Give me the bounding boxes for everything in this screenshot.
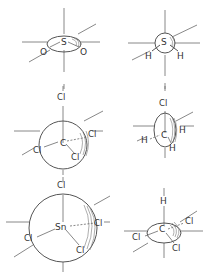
molecule-so2: S O O <box>22 8 100 89</box>
bond-right-dashed <box>70 223 95 226</box>
atom-label-left: Cl <box>24 233 32 243</box>
bond-bottom-right <box>66 230 79 245</box>
atom-label-center: C <box>60 138 66 148</box>
atom-label-left: H <box>145 51 152 61</box>
atom-label-right: Cl <box>94 218 102 228</box>
atom-label-left: Cl <box>132 232 140 242</box>
atom-label-center: S <box>61 37 67 47</box>
axis-diagonal <box>84 111 103 121</box>
axis-diagonal <box>172 25 197 37</box>
atom-label-right: O <box>80 47 87 57</box>
atom-label-center: C <box>159 224 165 234</box>
atom-label-right: Cl <box>88 129 96 139</box>
atom-label-top: Cl <box>57 180 65 190</box>
atom-label-left: H <box>141 135 148 145</box>
atom-label-top: H <box>160 196 167 206</box>
atom-label-bottom: Cl <box>172 243 180 253</box>
axis-diagonal <box>176 112 193 121</box>
atom-label-bottom: Cl <box>76 245 84 255</box>
atom-label-center: Sn <box>55 222 66 232</box>
molecule-chcl3: H C Cl Cl Cl <box>124 188 203 258</box>
atom-label-right: H <box>179 125 186 135</box>
atom-label-right: Cl <box>185 216 193 226</box>
atom-label-center: S <box>161 37 167 47</box>
axis-diagonal <box>133 243 148 252</box>
molecule-ccl4: Cl C Cl Cl Cl <box>14 86 103 175</box>
atom-label-left: O <box>40 47 47 57</box>
atom-label-top: Cl <box>159 98 167 108</box>
atom-label-top: Cl <box>57 92 65 102</box>
molecular-shapes-figure: S O O S H H Cl C Cl Cl Cl <box>0 0 209 276</box>
bond-left <box>37 229 55 237</box>
atom-label-bottom: Cl <box>71 152 79 162</box>
axis-diagonal <box>94 196 110 205</box>
axis-diagonal <box>78 24 96 34</box>
bond <box>50 42 60 47</box>
atom-label-center: C <box>161 130 167 140</box>
molecule-sncl4: Cl Sn Cl Cl Cl <box>6 177 110 272</box>
atom-label-left: Cl <box>33 145 41 155</box>
bond-left <box>44 142 58 147</box>
bond <box>68 42 79 47</box>
bond-right-dashed <box>67 137 88 141</box>
atom-label-right: H <box>177 51 184 61</box>
molecule-h2s: S H H <box>128 10 200 89</box>
axis-diagonal <box>14 245 33 257</box>
bond-bottom <box>166 233 174 243</box>
atom-label-bottom: H <box>169 143 176 153</box>
molecule-ch3cl: Cl C H H H <box>133 86 194 158</box>
bond <box>152 45 160 51</box>
